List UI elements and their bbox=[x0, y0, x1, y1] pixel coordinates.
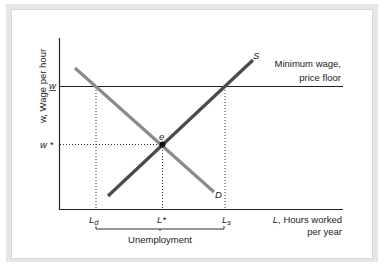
supply-curve bbox=[108, 60, 253, 196]
min-wage-label-1: Minimum wage, bbox=[274, 58, 341, 69]
ls-label: Ls bbox=[222, 214, 231, 227]
labor-market-chart: e S D Minimum wage, price floor w w * w,… bbox=[0, 0, 384, 277]
d-label: D bbox=[215, 189, 222, 200]
guide-lines bbox=[60, 87, 225, 209]
equilibrium-point bbox=[160, 142, 166, 148]
x-axis-title-2: per year bbox=[307, 226, 342, 237]
lstar-label: L* bbox=[157, 214, 166, 225]
s-label: S bbox=[253, 50, 260, 61]
w-star-label: w * bbox=[40, 139, 54, 150]
unemployment-bracket bbox=[96, 226, 224, 231]
min-wage-label-2: price floor bbox=[299, 72, 341, 83]
ld-label: Ld bbox=[89, 214, 99, 227]
y-axis-title: w, Wage per hour bbox=[37, 49, 48, 124]
e-label: e bbox=[159, 131, 164, 142]
unemployment-label: Unemployment bbox=[128, 234, 192, 245]
w-min-label: w bbox=[49, 80, 57, 91]
x-axis-title-1: L, Hours worked bbox=[273, 214, 342, 225]
